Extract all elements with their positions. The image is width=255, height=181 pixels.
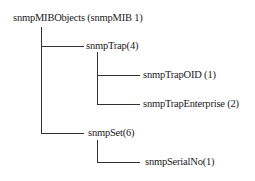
tree-connectors — [0, 0, 255, 181]
node-snmptrapoid: snmpTrapOID (1) — [143, 70, 216, 81]
node-snmptrapenterprise: snmpTrapEnterprise (2) — [143, 99, 239, 110]
node-snmpmibobjects: snmpMIBObjects (snmpMIB 1) — [13, 13, 143, 24]
node-snmptrap: snmpTrap(4) — [86, 41, 138, 52]
node-snmpserialno: snmpSerialNo(1) — [145, 157, 214, 168]
node-snmpset: snmpSet(6) — [88, 128, 134, 139]
